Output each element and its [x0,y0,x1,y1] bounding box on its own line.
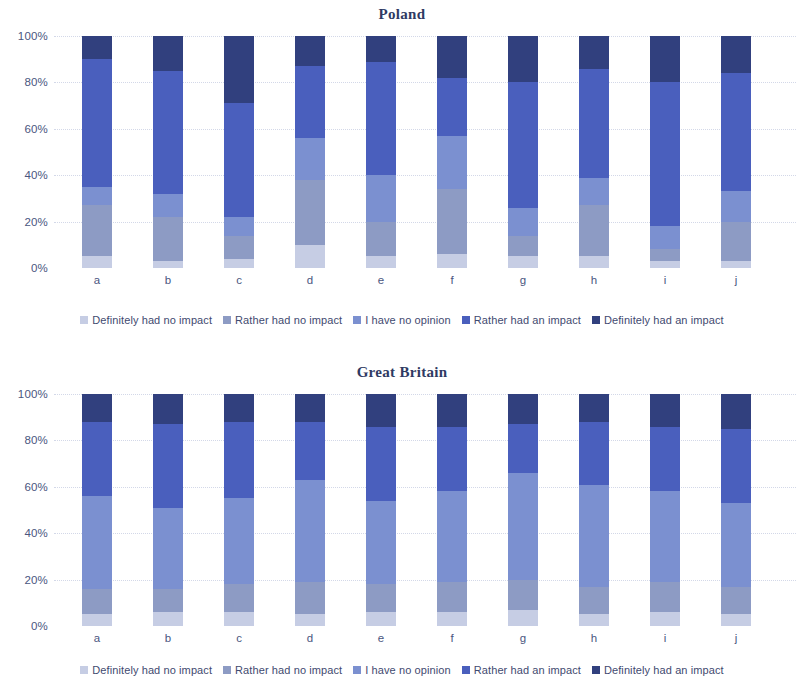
bar-segment[interactable] [579,256,609,268]
bar-segment[interactable] [650,82,680,226]
bar-segment[interactable] [437,189,467,254]
bar-segment[interactable] [721,429,751,503]
bar-segment[interactable] [508,424,538,473]
legend-item[interactable]: Rather had no impact [223,664,342,676]
bar-segment[interactable] [224,236,254,259]
bar-segment[interactable] [437,612,467,626]
legend-item[interactable]: Definitely had no impact [80,664,212,676]
legend-item[interactable]: Definitely had an impact [592,314,724,326]
bar-segment[interactable] [437,394,467,426]
bar-segment[interactable] [366,62,396,176]
bar-segment[interactable] [650,36,680,82]
bar-segment[interactable] [366,501,396,585]
bar-segment[interactable] [366,427,396,501]
bar-segment[interactable] [650,249,680,261]
stacked-bar[interactable] [295,394,325,626]
bar-segment[interactable] [508,610,538,626]
stacked-bar[interactable] [721,394,751,626]
stacked-bar[interactable] [82,36,112,268]
stacked-bar[interactable] [508,394,538,626]
bar-segment[interactable] [650,612,680,626]
bar-segment[interactable] [366,36,396,62]
bar-segment[interactable] [721,614,751,626]
bar-segment[interactable] [82,614,112,626]
legend-item[interactable]: Rather had an impact [462,664,581,676]
bar-segment[interactable] [153,589,183,612]
bar-segment[interactable] [437,582,467,612]
stacked-bar[interactable] [721,36,751,268]
bar-segment[interactable] [579,614,609,626]
bar-segment[interactable] [224,259,254,268]
bar-segment[interactable] [650,427,680,492]
bar-segment[interactable] [508,580,538,610]
stacked-bar[interactable] [224,36,254,268]
legend-item[interactable]: Rather had an impact [462,314,581,326]
bar-segment[interactable] [295,36,325,66]
bar-segment[interactable] [295,66,325,138]
bar-segment[interactable] [366,584,396,612]
stacked-bar[interactable] [224,394,254,626]
bar-segment[interactable] [579,36,609,68]
bar-segment[interactable] [366,612,396,626]
bar-segment[interactable] [82,496,112,589]
bar-segment[interactable] [721,36,751,73]
bar-segment[interactable] [82,256,112,268]
stacked-bar[interactable] [295,36,325,268]
bar-segment[interactable] [721,191,751,221]
bar-segment[interactable] [579,394,609,422]
bar-segment[interactable] [82,394,112,422]
bar-segment[interactable] [295,394,325,422]
bar-segment[interactable] [579,178,609,206]
bar-segment[interactable] [153,424,183,508]
bar-segment[interactable] [295,582,325,614]
legend-item[interactable]: I have no opinion [353,664,451,676]
stacked-bar[interactable] [153,36,183,268]
legend-item[interactable]: I have no opinion [353,314,451,326]
bar-segment[interactable] [437,136,467,189]
bar-segment[interactable] [508,394,538,424]
bar-segment[interactable] [650,226,680,249]
bar-segment[interactable] [153,394,183,424]
stacked-bar[interactable] [82,394,112,626]
stacked-bar[interactable] [508,36,538,268]
stacked-bar[interactable] [650,36,680,268]
bar-segment[interactable] [650,394,680,426]
bar-segment[interactable] [82,422,112,496]
bar-segment[interactable] [295,422,325,480]
stacked-bar[interactable] [153,394,183,626]
bar-segment[interactable] [508,36,538,82]
bar-segment[interactable] [82,205,112,256]
bar-segment[interactable] [579,422,609,485]
bar-segment[interactable] [366,394,396,426]
bar-segment[interactable] [437,78,467,136]
bar-segment[interactable] [153,36,183,71]
legend-item[interactable]: Definitely had an impact [592,664,724,676]
stacked-bar[interactable] [650,394,680,626]
bar-segment[interactable] [82,36,112,59]
bar-segment[interactable] [437,491,467,581]
stacked-bar[interactable] [366,394,396,626]
bar-segment[interactable] [366,256,396,268]
bar-segment[interactable] [437,36,467,78]
bar-segment[interactable] [153,194,183,217]
bar-segment[interactable] [508,82,538,207]
bar-segment[interactable] [579,205,609,256]
bar-segment[interactable] [153,612,183,626]
bar-segment[interactable] [437,254,467,268]
bar-segment[interactable] [224,422,254,499]
legend-item[interactable]: Rather had no impact [223,314,342,326]
bar-segment[interactable] [295,138,325,180]
bar-segment[interactable] [295,480,325,582]
bar-segment[interactable] [82,589,112,615]
stacked-bar[interactable] [437,36,467,268]
bar-segment[interactable] [153,217,183,261]
bar-segment[interactable] [650,261,680,268]
bar-segment[interactable] [508,236,538,257]
bar-segment[interactable] [82,59,112,187]
bar-segment[interactable] [224,103,254,217]
bar-segment[interactable] [224,584,254,612]
bar-segment[interactable] [579,587,609,615]
bar-segment[interactable] [224,394,254,422]
bar-segment[interactable] [650,491,680,581]
bar-segment[interactable] [508,473,538,580]
